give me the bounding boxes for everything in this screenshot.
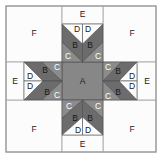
label-d-right-1: D (129, 81, 135, 91)
label-c-bottom-4: C (66, 101, 72, 111)
label-b-bottom-2: B (72, 113, 78, 123)
label-f-3: F (129, 124, 134, 134)
label-c-top-4: C (65, 51, 71, 61)
label-d-bottom-0: D (75, 125, 81, 135)
quilt-block-svg: FFFFEEEEADDBBCCDDBBCCDDBBCCDDBBCC (0, 0, 167, 160)
label-c-bottom-5: C (95, 101, 101, 111)
label-a: A (80, 76, 86, 86)
label-c-top-5: C (95, 51, 101, 61)
label-b-right-2: B (115, 66, 121, 76)
label-b-bottom-3: B (87, 113, 93, 123)
label-e-0: E (80, 9, 86, 19)
label-f-1: F (129, 28, 134, 38)
label-b-top-3: B (87, 40, 93, 50)
label-b-left-2: B (42, 65, 48, 75)
label-f-2: F (31, 124, 36, 134)
label-c-left-4: C (54, 62, 60, 72)
label-b-right-3: B (115, 87, 121, 97)
label-d-left-0: D (27, 71, 33, 81)
label-d-bottom-1: D (85, 125, 91, 135)
label-b-top-2: B (72, 40, 78, 50)
label-d-left-1: D (27, 81, 33, 91)
quilt-diagram: FFFFEEEEADDBBCCDDBBCCDDBBCCDDBBCC (0, 0, 167, 160)
label-c-right-5: C (105, 91, 111, 101)
label-c-left-5: C (54, 90, 60, 100)
label-d-right-0: D (129, 71, 135, 81)
label-b-left-3: B (44, 87, 50, 97)
label-f-0: F (31, 28, 36, 38)
label-d-top-1: D (85, 24, 91, 34)
label-e-2: E (12, 76, 18, 86)
label-e-3: E (144, 76, 150, 86)
label-e-1: E (80, 139, 86, 149)
label-d-top-0: D (74, 24, 80, 34)
label-c-right-4: C (105, 62, 111, 72)
